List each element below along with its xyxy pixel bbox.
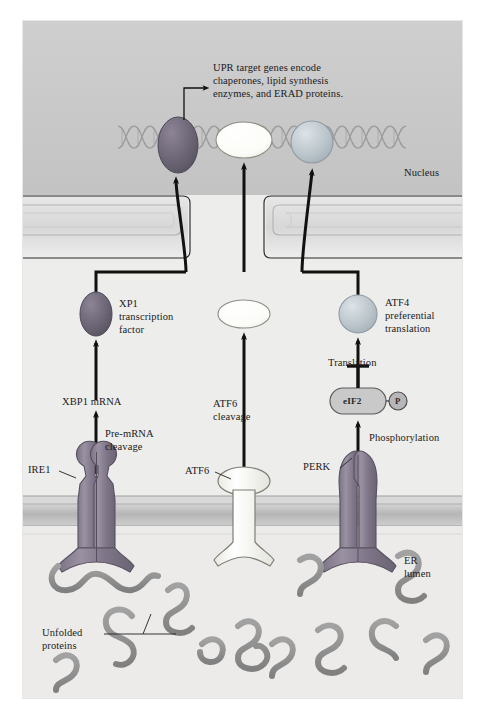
phosphate-label: P — [395, 396, 400, 406]
dna-bound-atf4-factor — [291, 121, 333, 163]
atf6-cleaved-factor — [218, 300, 270, 328]
diagram-canvas — [0, 0, 488, 724]
dna-bound-atf6-factor — [216, 122, 272, 158]
ire1-monomer-right — [91, 441, 117, 548]
upr-signaling-figure: UPR target genes encode chaperones, lipi… — [0, 0, 488, 724]
xbp1-transcription-factor — [80, 292, 112, 336]
atf4-factor — [339, 295, 377, 333]
dna-bound-xbp1-factor — [158, 117, 198, 173]
eif2-label: eIF2 — [343, 396, 362, 406]
